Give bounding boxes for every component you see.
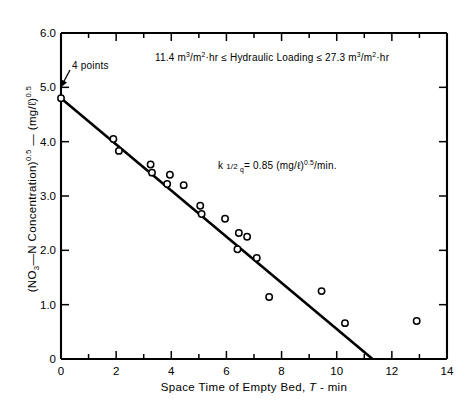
x-tick-label: 8 <box>278 365 284 377</box>
data-point <box>318 288 324 294</box>
y-tick-label: 2.0 <box>18 244 56 256</box>
y-tick-label: 1.0 <box>18 299 56 311</box>
data-point <box>197 203 203 209</box>
x-tick-label: 10 <box>330 365 343 377</box>
data-point <box>254 255 260 261</box>
data-point <box>164 181 170 187</box>
data-point <box>222 216 228 222</box>
x-axis-title: Space Time of Empty Bed, T - min <box>61 381 447 393</box>
data-point <box>198 211 204 217</box>
data-point <box>342 320 348 326</box>
data-point <box>167 172 173 178</box>
fit-line <box>61 98 373 359</box>
data-point <box>413 318 419 324</box>
data-points <box>58 95 420 326</box>
data-point <box>236 230 242 236</box>
figure-nitrate-vs-space-time: (NO3—N Concentration)0.5 — (mg/ℓ)0.5 Spa… <box>0 0 470 406</box>
axes <box>61 33 447 359</box>
y-tick-label: 6.0 <box>18 27 56 39</box>
data-point <box>58 95 64 101</box>
data-point <box>149 169 155 175</box>
x-tick-label: 0 <box>58 365 64 377</box>
x-tick-label: 4 <box>168 365 174 377</box>
data-point <box>180 182 186 188</box>
data-point <box>147 161 153 167</box>
data-point <box>266 294 272 300</box>
four-points-annotation: 4 points <box>72 60 109 71</box>
annotation-arrow <box>62 70 71 87</box>
x-tick-label: 6 <box>223 365 229 377</box>
x-tick-label: 2 <box>113 365 119 377</box>
y-tick-label: 4.0 <box>18 136 56 148</box>
tick-marks <box>61 33 447 359</box>
rate-constant-annotation: k 1/2 q= 0.85 (mg/ℓ)0.5/min. <box>218 160 337 171</box>
hydraulic-loading-annotation: 11.4 m3/m2·hr ≤ Hydraulic Loading ≤ 27.3… <box>155 52 389 63</box>
data-point <box>110 136 116 142</box>
x-tick-label: 14 <box>441 365 454 377</box>
data-point <box>116 148 122 154</box>
x-tick-label: 12 <box>385 365 398 377</box>
y-tick-label: 3.0 <box>18 190 56 202</box>
data-point <box>244 234 250 240</box>
y-tick-label: 0 <box>18 353 56 365</box>
y-tick-label: 5.0 <box>18 81 56 93</box>
data-point <box>234 246 240 252</box>
